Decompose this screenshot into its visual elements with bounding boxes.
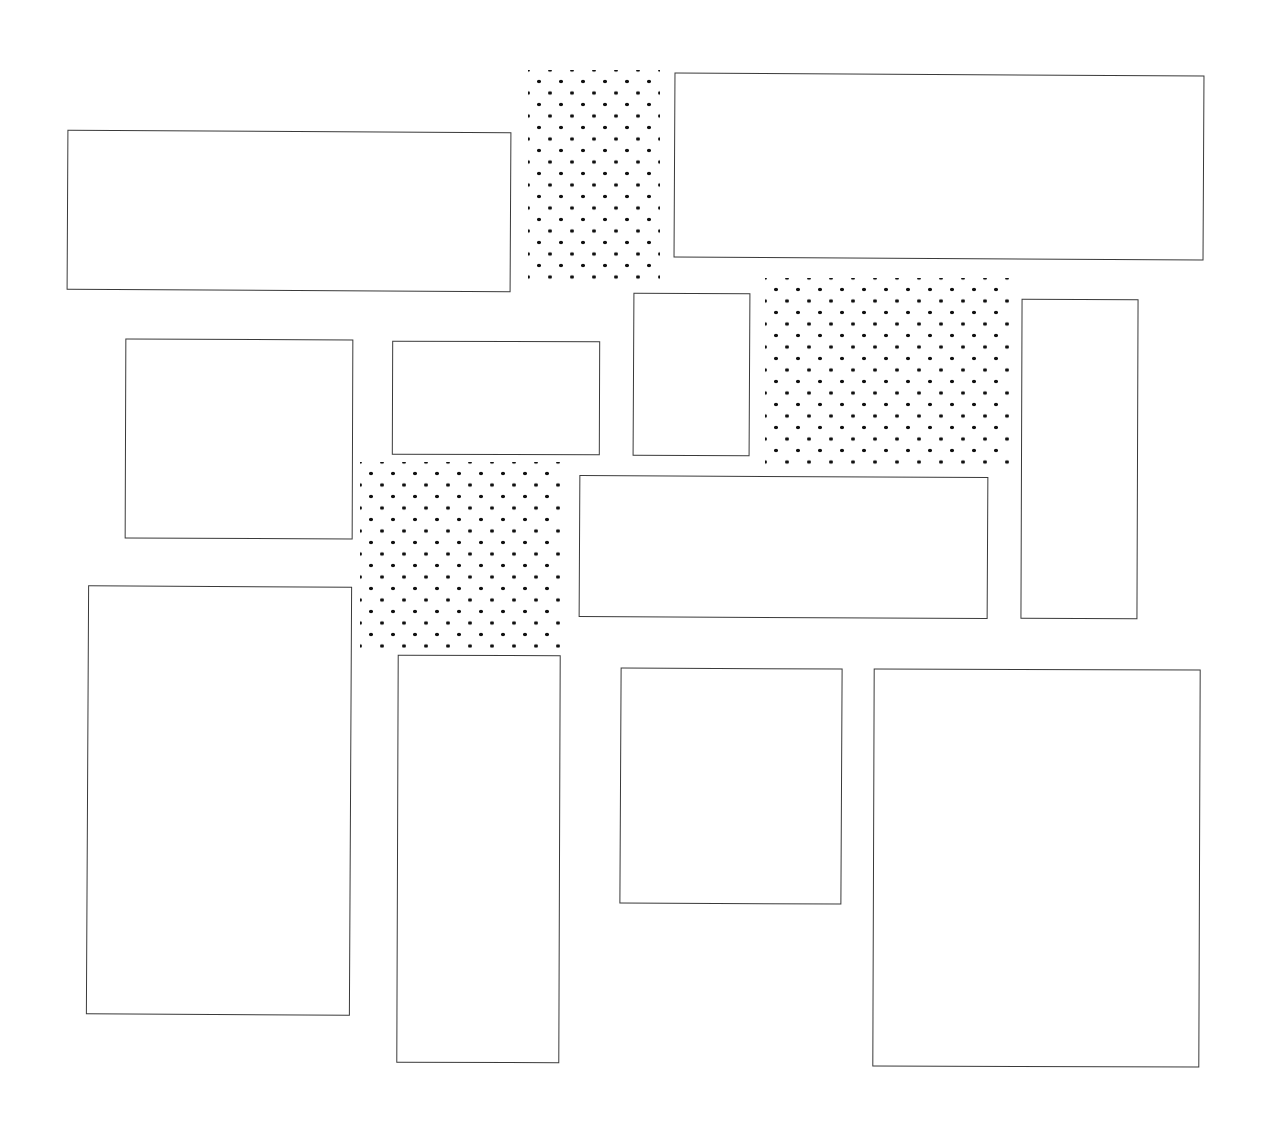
rect-bottom-3 [619,667,842,904]
rect-bottom-2 [396,655,560,1064]
diagram-canvas [0,0,1269,1125]
dots-top-pattern [528,70,660,280]
rect-bottom-left [86,585,352,1015]
rect-top-right [674,73,1205,261]
rect-mid-2 [392,341,600,456]
rect-center-wide [579,475,989,619]
rect-top-left [67,130,512,292]
rect-mid-3 [633,293,751,457]
rect-bottom-right [872,668,1200,1067]
rect-mid-1 [125,339,354,540]
dots-mid-right-pattern [765,278,1013,468]
dots-mid-left-pattern [360,462,566,648]
rect-mid-right-tall [1020,299,1138,619]
